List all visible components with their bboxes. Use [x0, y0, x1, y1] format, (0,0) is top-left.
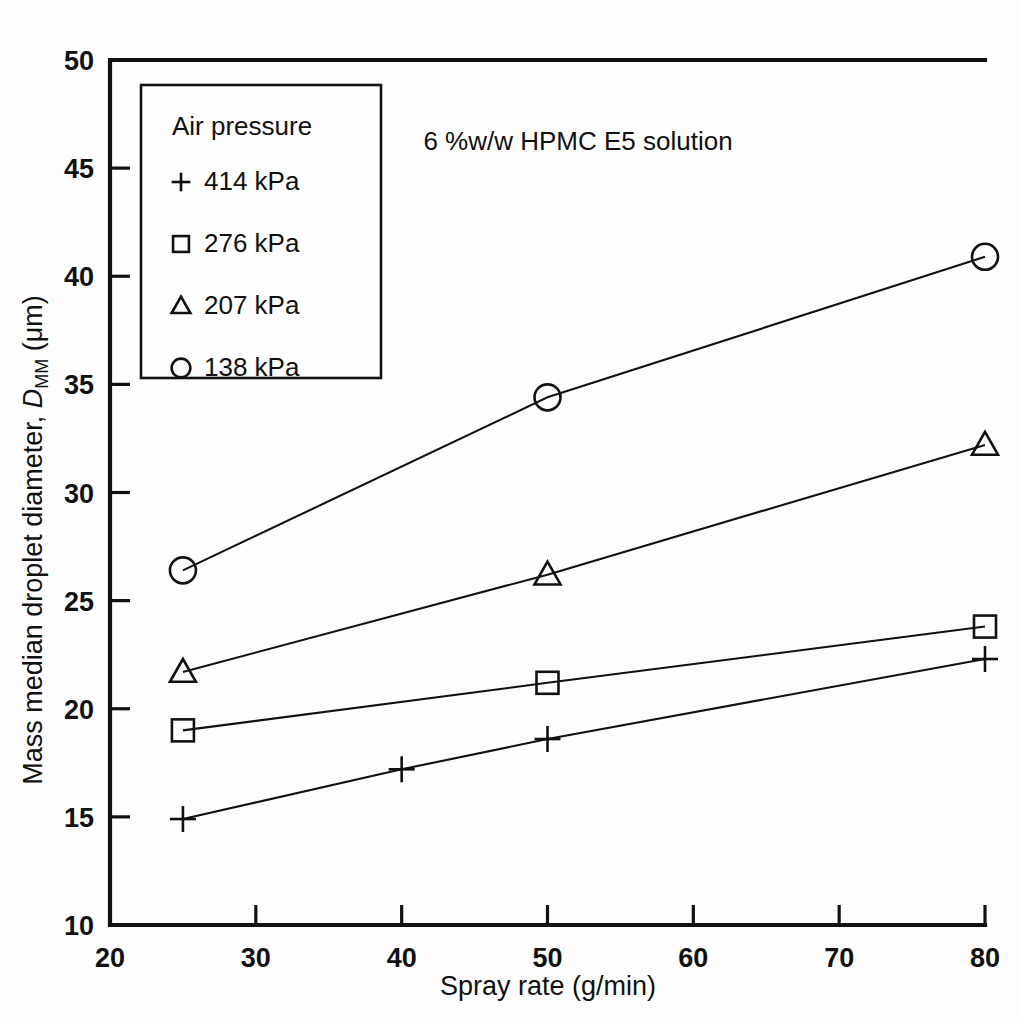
plus-marker — [170, 806, 196, 832]
y-tick-label: 15 — [64, 803, 94, 833]
series-line — [183, 257, 985, 571]
series-414-kpa — [170, 646, 998, 832]
legend-entry-414-kpa: 414 kPa — [172, 166, 300, 196]
y-axis-title-prefix: Mass median droplet diameter, — [18, 408, 48, 785]
legend-entry-276-kpa: 276 kPa — [173, 228, 300, 258]
x-tick-label: 80 — [970, 943, 1000, 973]
triangle-marker — [972, 432, 998, 455]
y-tick-label: 20 — [64, 695, 94, 725]
y-tick-label: 35 — [64, 370, 94, 400]
legend-entry-207-kpa: 207 kPa — [172, 290, 300, 320]
y-tick-label: 50 — [64, 46, 94, 76]
x-tick-label: 30 — [241, 943, 271, 973]
square-marker — [173, 236, 189, 252]
legend-entry-label: 138 kPa — [204, 352, 300, 382]
series-276-kpa — [172, 616, 996, 742]
chart-title: 6 %w/w HPMC E5 solution — [423, 126, 732, 156]
plus-marker — [389, 756, 415, 782]
data-series-layer — [170, 244, 998, 832]
legend-entry-label: 276 kPa — [204, 228, 300, 258]
x-tick-label: 20 — [95, 943, 125, 973]
series-line — [183, 659, 985, 819]
legend-entry-label: 414 kPa — [204, 166, 300, 196]
x-tick-label: 40 — [387, 943, 417, 973]
x-tick-label: 60 — [678, 943, 708, 973]
y-axis-title-symbol: D — [18, 389, 48, 409]
plus-marker — [172, 173, 191, 192]
y-axis-title-subscript: MM — [32, 359, 52, 389]
plus-marker — [972, 646, 998, 672]
y-tick-label: 25 — [64, 587, 94, 617]
x-axis-ticks — [256, 905, 985, 925]
x-tick-label: 50 — [532, 943, 562, 973]
x-axis-title: Spray rate (g/min) — [440, 971, 656, 1001]
y-tick-label: 30 — [64, 479, 94, 509]
y-axis-tick-labels: 101520253035404550 — [64, 46, 94, 941]
y-axis-title-group: Mass median droplet diameter, DMM (μm) — [18, 295, 52, 785]
circle-marker — [172, 359, 191, 378]
y-tick-label: 45 — [64, 154, 94, 184]
x-axis-tick-labels: 20304050607080 — [95, 943, 1000, 973]
y-tick-label: 40 — [64, 262, 94, 292]
triangle-marker — [172, 297, 191, 313]
legend-entries: 414 kPa276 kPa207 kPa138 kPa — [172, 166, 300, 382]
figure-container: 101520253035404550 20304050607080 6 %w/w… — [0, 0, 1021, 1023]
chart-svg: 101520253035404550 20304050607080 6 %w/w… — [0, 0, 1021, 1023]
y-axis-title-units: (μm) — [18, 295, 48, 359]
y-axis-ticks — [110, 168, 130, 925]
y-axis-title: Mass median droplet diameter, DMM (μm) — [18, 295, 52, 785]
series-line — [183, 627, 985, 731]
series-207-kpa — [170, 432, 998, 682]
legend-entry-label: 207 kPa — [204, 290, 300, 320]
x-tick-label: 70 — [824, 943, 854, 973]
legend: Air pressure 414 kPa276 kPa207 kPa138 kP… — [141, 85, 381, 382]
series-line — [183, 445, 985, 672]
plus-marker — [535, 726, 561, 752]
legend-title: Air pressure — [172, 111, 312, 141]
y-tick-label: 10 — [64, 911, 94, 941]
